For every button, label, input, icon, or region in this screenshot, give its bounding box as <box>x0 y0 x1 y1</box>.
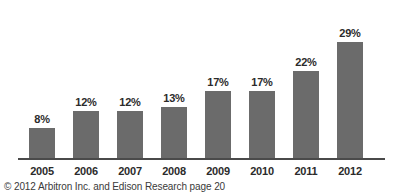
x-tick-label: 2006 <box>64 164 108 178</box>
bar-value-label: 12% <box>108 97 152 108</box>
bar <box>161 107 187 160</box>
bar-group: 8% <box>20 0 64 162</box>
bar-value-label: 8% <box>20 114 64 125</box>
bar-chart-figure: 8%12%12%13%17%17%22%29% 2005200620072008… <box>0 0 395 196</box>
x-axis-tick-labels: 20052006200720082009201020112012 <box>0 164 395 180</box>
x-tick-label: 2009 <box>196 164 240 178</box>
bar <box>205 91 231 160</box>
x-tick-label: 2008 <box>152 164 196 178</box>
x-axis-line <box>18 158 385 160</box>
bar <box>249 91 275 160</box>
bar-group: 12% <box>64 0 108 162</box>
bar-value-label: 22% <box>284 57 328 68</box>
x-tick-label: 2005 <box>20 164 64 178</box>
bar-value-label: 17% <box>240 77 284 88</box>
x-tick-label: 2007 <box>108 164 152 178</box>
plot-area: 8%12%12%13%17%17%22%29% <box>0 0 395 162</box>
bar-group: 13% <box>152 0 196 162</box>
bar-group: 17% <box>196 0 240 162</box>
bar-value-label: 13% <box>152 93 196 104</box>
bar-group: 22% <box>284 0 328 162</box>
bar <box>117 111 143 160</box>
chart-footer-credit: © 2012 Arbitron Inc. and Edison Research… <box>4 181 225 193</box>
bar-group: 29% <box>328 0 372 162</box>
bar <box>337 42 363 160</box>
bar-group: 12% <box>108 0 152 162</box>
bar-value-label: 17% <box>196 77 240 88</box>
x-tick-label: 2010 <box>240 164 284 178</box>
bar-value-label: 12% <box>64 97 108 108</box>
bar-group: 17% <box>240 0 284 162</box>
bar <box>73 111 99 160</box>
x-tick-label: 2011 <box>284 164 328 178</box>
bar-value-label: 29% <box>328 28 372 39</box>
x-tick-label: 2012 <box>328 164 372 178</box>
bar <box>29 128 55 160</box>
bar <box>293 71 319 160</box>
